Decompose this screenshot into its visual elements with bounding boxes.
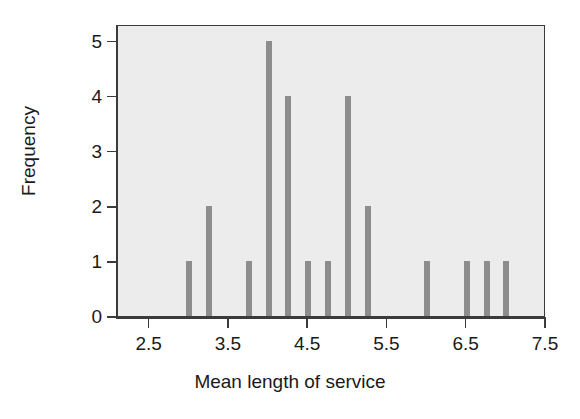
x-axis-tick bbox=[227, 318, 229, 328]
y-axis-tick-label: 0 bbox=[76, 307, 102, 326]
histogram-bar bbox=[285, 96, 291, 316]
histogram-bar bbox=[503, 261, 509, 316]
x-axis-tick-label: 5.5 bbox=[356, 333, 416, 355]
x-axis-title: Mean length of service bbox=[0, 371, 580, 393]
x-axis-tick bbox=[148, 318, 150, 328]
x-axis-tick bbox=[544, 318, 546, 328]
histogram-bar bbox=[206, 206, 212, 316]
x-axis-tick bbox=[306, 318, 308, 328]
y-axis-line bbox=[116, 25, 118, 318]
histogram-bar bbox=[365, 206, 371, 316]
x-axis-line bbox=[116, 317, 546, 319]
y-axis-tick bbox=[107, 206, 116, 208]
histogram-bar bbox=[484, 261, 490, 316]
y-axis-tick-label: 2 bbox=[76, 197, 102, 216]
y-axis-tick bbox=[107, 41, 116, 43]
y-axis-tick bbox=[107, 316, 116, 318]
histogram-bar bbox=[186, 261, 192, 316]
y-axis-tick-label: 3 bbox=[76, 142, 102, 161]
x-axis-tick-label: 2.5 bbox=[119, 333, 179, 355]
y-axis-tick bbox=[107, 151, 116, 153]
plot-area bbox=[117, 25, 545, 317]
histogram-figure: 012345 Frequency 2.53.54.55.56.57.5 Mean… bbox=[0, 0, 580, 419]
x-axis-tick-label: 7.5 bbox=[515, 333, 575, 355]
y-axis-tick-label: 5 bbox=[76, 32, 102, 51]
x-axis-tick bbox=[465, 318, 467, 328]
histogram-bar bbox=[464, 261, 470, 316]
x-axis-tick-label: 4.5 bbox=[277, 333, 337, 355]
histogram-bar bbox=[305, 261, 311, 316]
y-axis-tick-label: 4 bbox=[76, 87, 102, 106]
y-axis-tick-label: 1 bbox=[76, 252, 102, 271]
y-axis-tick bbox=[107, 96, 116, 98]
x-axis-tick bbox=[386, 318, 388, 328]
y-axis-tick bbox=[107, 261, 116, 263]
x-axis-tick-label: 6.5 bbox=[436, 333, 496, 355]
histogram-bar bbox=[424, 261, 430, 316]
y-axis-title: Frequency bbox=[18, 81, 40, 221]
histogram-bar bbox=[345, 96, 351, 316]
y-axis-tick-labels: 012345 bbox=[70, 0, 102, 419]
histogram-bar bbox=[266, 41, 272, 316]
histogram-bar bbox=[325, 261, 331, 316]
histogram-bar bbox=[246, 261, 252, 316]
x-axis-tick-label: 3.5 bbox=[198, 333, 258, 355]
